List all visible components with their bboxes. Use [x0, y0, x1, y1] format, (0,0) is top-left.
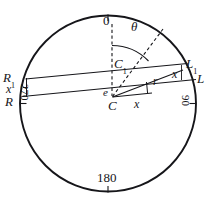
- geometry-figure: 0 180 90 270 θ C1 e C x r L1 L x R1 x R: [0, 0, 211, 208]
- point-label-R: R: [5, 95, 13, 108]
- measure-label-x-center: x: [134, 98, 139, 110]
- measure-label-x-right: x: [172, 68, 177, 80]
- angle-label-theta: θ: [131, 20, 137, 33]
- bearing-label-90: 90: [180, 95, 191, 106]
- chord-upper-R1-L1: [26, 64, 188, 80]
- point-label-R1-subscript: 1: [11, 81, 15, 90]
- point-label-C1-subscript: 1: [123, 67, 127, 76]
- point-label-L1: L1: [186, 57, 197, 74]
- point-label-C: C: [108, 99, 117, 112]
- chord-lower-R-L: [23, 80, 197, 97]
- point-label-L: L: [197, 72, 204, 85]
- bearing-label-270: 270: [19, 84, 30, 101]
- bearing-label-180: 180: [97, 171, 117, 184]
- point-label-C1-letter: C: [114, 56, 123, 71]
- point-label-e: e: [103, 87, 108, 98]
- measure-label-r: r: [153, 75, 158, 87]
- bearing-label-0: 0: [103, 14, 110, 27]
- point-label-C1: C1: [114, 57, 127, 74]
